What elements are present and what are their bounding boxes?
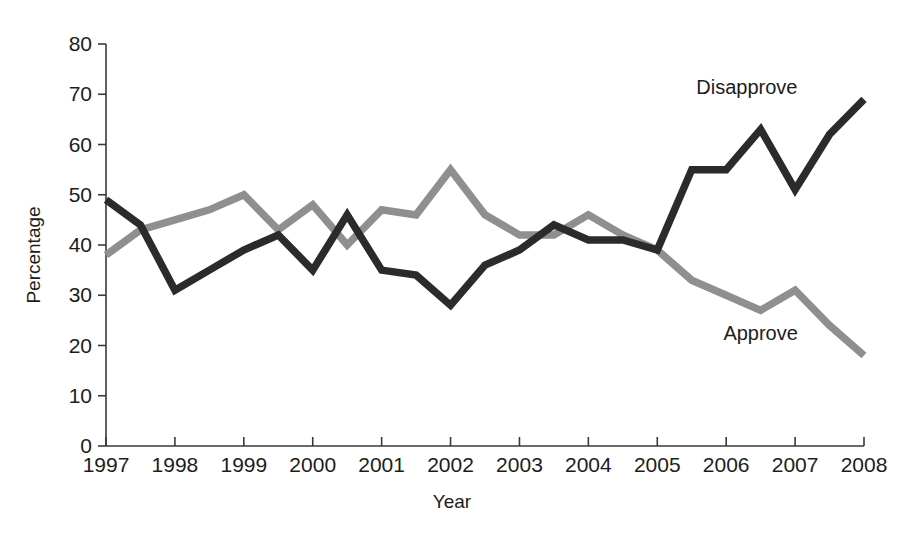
x-axis: 1997199819992000200120022003200420052006… [83,437,888,476]
x-tick-label: 2005 [634,453,681,476]
y-tick-label: 50 [69,183,92,206]
x-tick-label: 2003 [496,453,543,476]
line-chart: 01020304050607080 1997199819992000200120… [0,0,900,547]
y-tick-label: 20 [69,334,92,357]
y-tick-label: 60 [69,133,92,156]
x-axis-title: Year [433,491,472,512]
y-axis: 01020304050607080 [69,32,106,457]
y-tick-label: 40 [69,233,92,256]
series-label-disapprove: Disapprove [696,76,797,98]
y-tick-label: 10 [69,384,92,407]
x-tick-label: 1999 [220,453,267,476]
x-tick-label: 2007 [772,453,819,476]
x-tick-label: 2008 [841,453,888,476]
x-tick-label: 1998 [152,453,199,476]
y-tick-group: 01020304050607080 [69,32,106,457]
y-tick-label: 80 [69,32,92,55]
x-tick-label: 2000 [289,453,336,476]
x-tick-label: 2001 [358,453,405,476]
y-tick-label: 70 [69,82,92,105]
x-tick-label: 2006 [703,453,750,476]
x-tick-group: 1997199819992000200120022003200420052006… [83,437,888,476]
y-axis-title: Percentage [23,206,44,303]
x-tick-label: 1997 [83,453,130,476]
series-label-approve: Approve [723,322,798,344]
y-tick-label: 30 [69,283,92,306]
series-group [106,99,864,355]
x-tick-label: 2004 [565,453,612,476]
chart-canvas: 01020304050607080 1997199819992000200120… [0,0,900,547]
x-tick-label: 2002 [427,453,474,476]
